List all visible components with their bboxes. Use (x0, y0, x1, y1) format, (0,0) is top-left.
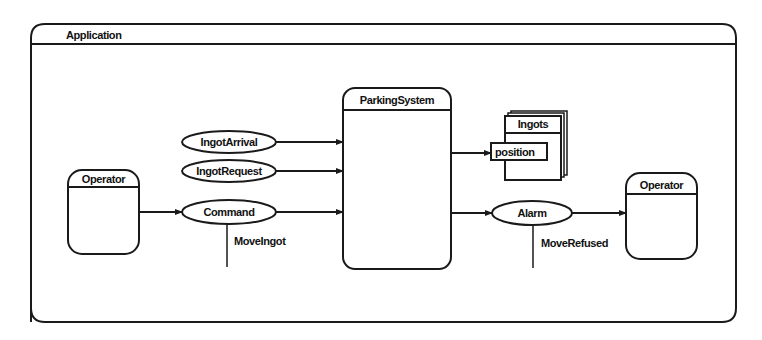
parking-system-label: ParkingSystem (360, 94, 435, 106)
parking-system-node[interactable]: ParkingSystem (343, 88, 451, 269)
operator-left-node[interactable]: Operator (68, 170, 139, 254)
flow-ingot-request[interactable]: IngotRequest (182, 160, 276, 182)
position-attribute-label: position (495, 146, 535, 158)
ingots-node[interactable]: Ingots position (491, 111, 567, 180)
parking-system-box[interactable] (343, 88, 451, 269)
application-title: Application (66, 29, 122, 41)
operator-left-label: Operator (82, 173, 126, 185)
alarm-label: Alarm (517, 207, 547, 219)
flow-command[interactable]: Command MoveIngot (182, 200, 286, 267)
flow-ingot-arrival[interactable]: IngotArrival (182, 131, 276, 153)
flow-alarm[interactable]: Alarm MoveRefused (492, 201, 608, 268)
command-subtype-label: MoveIngot (234, 235, 286, 247)
alarm-subtype-label: MoveRefused (541, 237, 608, 249)
operator-right-label: Operator (640, 179, 684, 191)
ingot-arrival-label: IngotArrival (201, 136, 258, 148)
operator-right-node[interactable]: Operator (626, 173, 697, 259)
ingots-label: Ingots (518, 118, 549, 130)
ingot-request-label: IngotRequest (196, 165, 262, 177)
command-label: Command (204, 206, 255, 218)
diagram-canvas: Application Operator ParkingSystem Ingot… (0, 0, 762, 340)
